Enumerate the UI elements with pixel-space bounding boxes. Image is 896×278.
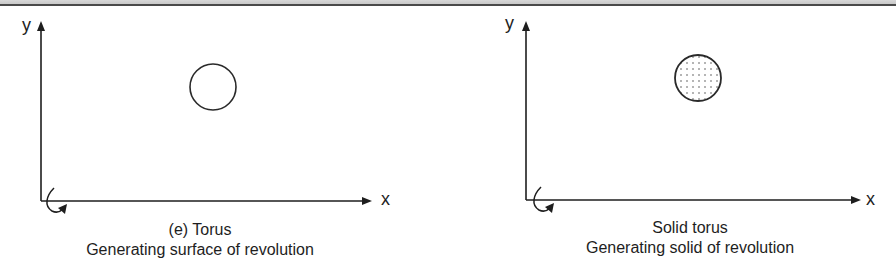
caption-title: Solid torus [530, 218, 850, 237]
y-axis-label: y [22, 16, 31, 34]
x-axis-arrow-icon [851, 196, 861, 204]
rotation-arrowhead-icon [58, 204, 67, 214]
y-axis-label: y [505, 14, 514, 32]
rotation-arrowhead-icon [545, 203, 554, 213]
caption-title: (e) Torus [40, 220, 360, 239]
x-axis-label: x [381, 190, 390, 208]
x-axis-arrow-icon [362, 197, 372, 205]
caption-subtitle: Generating surface of revolution [40, 240, 360, 259]
caption-subtitle: Generating solid of revolution [530, 238, 850, 257]
generating-circle [190, 64, 236, 110]
y-axis-arrow-icon [37, 21, 45, 31]
panel-solid-torus [522, 21, 861, 213]
panel-torus-surface [37, 21, 372, 214]
generating-disk [675, 55, 721, 101]
y-axis-arrow-icon [522, 21, 530, 31]
x-axis-label: x [866, 190, 875, 208]
